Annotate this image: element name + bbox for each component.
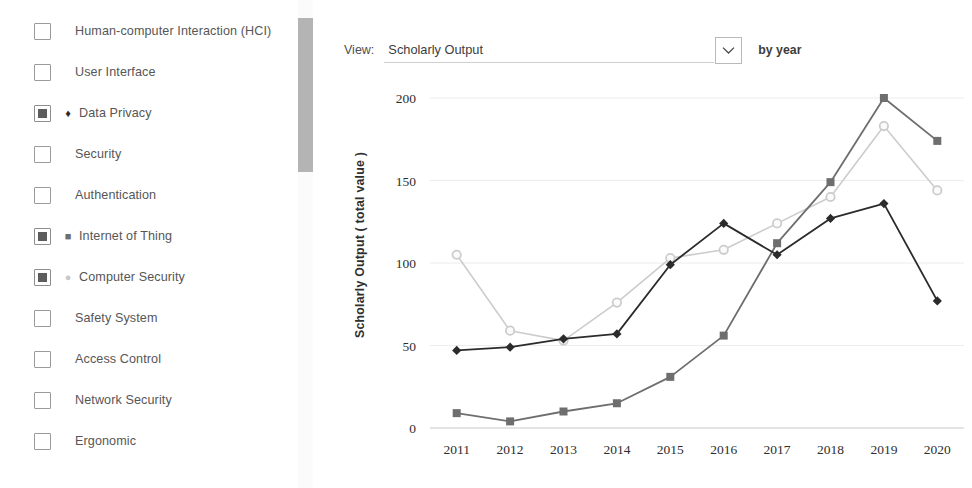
- topic-label: Internet of Thing: [79, 227, 172, 245]
- topic-row[interactable]: Safety System: [0, 309, 296, 347]
- y-axis-tick-label: 200: [396, 91, 417, 106]
- topic-checkbox[interactable]: [34, 23, 51, 40]
- data-point-marker[interactable]: [773, 239, 781, 247]
- topic-row[interactable]: ●Computer Security: [0, 268, 296, 306]
- data-point-marker[interactable]: [720, 332, 728, 340]
- by-year-label: by year: [758, 43, 801, 57]
- series-line-square: [457, 98, 938, 421]
- x-axis-tick-label: 2016: [710, 442, 737, 457]
- series-line-circle: [457, 126, 938, 341]
- topic-checkbox[interactable]: [34, 269, 51, 286]
- topic-row[interactable]: Authentication: [0, 186, 296, 224]
- view-controls-row: View: Scholarly Output by year: [344, 37, 801, 63]
- x-axis-tick-label: 2012: [497, 442, 524, 457]
- line-chart: Scholarly Output ( total value ) 0501001…: [332, 80, 972, 480]
- data-point-marker[interactable]: [879, 199, 888, 208]
- topic-list: Human-computer Interaction (HCI)User Int…: [0, 22, 296, 470]
- data-point-marker[interactable]: [613, 399, 621, 407]
- topic-checkbox[interactable]: [34, 64, 51, 81]
- sidebar-scrollbar-thumb[interactable]: [298, 18, 313, 172]
- data-point-marker[interactable]: [666, 373, 674, 381]
- topic-label: Security: [75, 145, 121, 163]
- data-point-marker[interactable]: [613, 298, 621, 306]
- view-select-value: Scholarly Output: [384, 42, 483, 57]
- x-axis-tick-label: 2017: [764, 442, 791, 457]
- data-point-marker[interactable]: [773, 219, 781, 227]
- topic-row[interactable]: ♦Data Privacy: [0, 104, 296, 142]
- data-point-marker[interactable]: [506, 326, 514, 334]
- data-point-marker[interactable]: [933, 137, 941, 145]
- chevron-down-icon[interactable]: [715, 37, 742, 64]
- topic-filter-sidebar: Human-computer Interaction (HCI)User Int…: [0, 0, 296, 488]
- topic-checkbox[interactable]: [34, 187, 51, 204]
- topic-checkbox[interactable]: [34, 228, 51, 245]
- topic-label: Computer Security: [79, 268, 185, 286]
- x-axis-tick-label: 2015: [657, 442, 684, 457]
- data-point-marker[interactable]: [506, 343, 515, 352]
- topic-row[interactable]: Access Control: [0, 350, 296, 388]
- topic-label: Ergonomic: [75, 432, 136, 450]
- sidebar-scrollbar[interactable]: [298, 0, 313, 488]
- data-point-marker[interactable]: [453, 409, 461, 417]
- topic-label: Access Control: [75, 350, 161, 368]
- data-point-marker[interactable]: [560, 408, 568, 416]
- chart-panel: View: Scholarly Output by year Scholarly…: [332, 0, 972, 488]
- data-point-marker[interactable]: [880, 94, 888, 102]
- data-point-marker[interactable]: [720, 246, 728, 254]
- chart-plot-area: 0501001502002011201220132014201520162017…: [332, 80, 972, 480]
- topic-label: Human-computer Interaction (HCI): [75, 22, 271, 40]
- y-axis-tick-label: 150: [396, 174, 417, 189]
- data-point-marker[interactable]: [933, 296, 942, 305]
- topic-row[interactable]: Human-computer Interaction (HCI): [0, 22, 296, 60]
- topic-checkbox[interactable]: [34, 433, 51, 450]
- topic-checkbox[interactable]: [34, 146, 51, 163]
- scholarly-output-chart-page: Human-computer Interaction (HCI)User Int…: [0, 0, 972, 488]
- data-point-marker[interactable]: [453, 251, 461, 259]
- x-axis-tick-label: 2014: [603, 442, 630, 457]
- data-point-marker[interactable]: [827, 178, 835, 186]
- topic-checkbox[interactable]: [34, 351, 51, 368]
- topic-label: Data Privacy: [79, 104, 152, 122]
- x-axis-tick-label: 2013: [550, 442, 577, 457]
- data-point-marker[interactable]: [933, 186, 941, 194]
- topic-row[interactable]: Security: [0, 145, 296, 183]
- topic-row[interactable]: Ergonomic: [0, 432, 296, 470]
- x-axis-tick-label: 2018: [817, 442, 844, 457]
- x-axis-tick-label: 2020: [924, 442, 951, 457]
- series-marker-icon: ■: [61, 230, 75, 242]
- topic-label: Safety System: [75, 309, 158, 327]
- series-line-diamond: [457, 204, 938, 351]
- data-point-marker[interactable]: [826, 193, 834, 201]
- topic-checkbox[interactable]: [34, 392, 51, 409]
- topic-row[interactable]: User Interface: [0, 63, 296, 101]
- topic-row[interactable]: ■Internet of Thing: [0, 227, 296, 265]
- topic-checkbox[interactable]: [34, 310, 51, 327]
- y-axis-tick-label: 0: [409, 421, 416, 436]
- series-marker-icon: ♦: [61, 107, 75, 119]
- view-select[interactable]: Scholarly Output: [384, 37, 714, 63]
- topic-label: Authentication: [75, 186, 156, 204]
- data-point-marker[interactable]: [506, 417, 514, 425]
- data-point-marker[interactable]: [452, 346, 461, 355]
- view-label: View:: [344, 43, 374, 57]
- topic-checkbox[interactable]: [34, 105, 51, 122]
- topic-row[interactable]: Network Security: [0, 391, 296, 429]
- data-point-marker[interactable]: [880, 122, 888, 130]
- y-axis-tick-label: 50: [403, 339, 417, 354]
- series-marker-icon: ●: [61, 271, 75, 283]
- x-axis-tick-label: 2019: [870, 442, 897, 457]
- y-axis-tick-label: 100: [396, 256, 417, 271]
- topic-label: Network Security: [75, 391, 172, 409]
- topic-label: User Interface: [75, 63, 156, 81]
- x-axis-tick-label: 2011: [443, 442, 470, 457]
